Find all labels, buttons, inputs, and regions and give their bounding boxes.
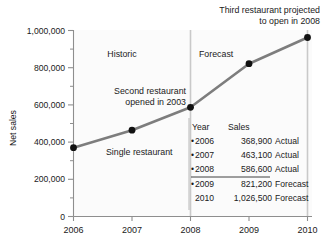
table-row-bullet-2008: • xyxy=(191,164,194,174)
table-row: • 2006 368,900 Actual xyxy=(191,136,299,146)
table-cell-status-2010: Forecast xyxy=(275,193,309,203)
table-row: • 2007 463,100 Actual xyxy=(191,150,299,160)
data-point-2008[interactable] xyxy=(187,104,194,111)
data-point-2006[interactable] xyxy=(70,144,77,151)
table-row: • 2009 821,200 Forecast xyxy=(191,179,309,189)
table-cell-year-2010: 2010 xyxy=(195,193,214,203)
x-tick-label-2007: 2007 xyxy=(122,225,142,235)
table-row-bullet-2006: • xyxy=(191,136,194,146)
table-cell-year-2006: 2006 xyxy=(195,136,214,146)
annotation-second-restaurant-line1: Second restaurant xyxy=(114,86,186,96)
net-sales-line-chart: 1,000,000 800,000 600,000 400,000 200,00… xyxy=(0,0,328,246)
table-cell-sales-2009: 821,200 xyxy=(241,179,272,189)
table-cell-sales-2010: 1,026,500 xyxy=(234,193,272,203)
annotation-third-restaurant-line1: Third restaurant projected xyxy=(219,5,320,15)
y-tick-label-600000: 600,000 xyxy=(34,100,65,110)
table-cell-year-2009: 2009 xyxy=(195,179,214,189)
x-tick-label-2006: 2006 xyxy=(63,225,83,235)
table-row: • 2008 586,600 Actual xyxy=(191,164,299,174)
table-row-bullet-2007: • xyxy=(191,150,194,160)
x-tick-label-2010: 2010 xyxy=(297,225,317,235)
annotation-second-restaurant-line2: opened in 2003 xyxy=(125,97,186,107)
table-row-bullet-2009: • xyxy=(191,179,194,189)
table-cell-sales-2008: 586,600 xyxy=(241,164,272,174)
y-axis-title: Net sales xyxy=(8,110,18,146)
y-tick-label-200000: 200,000 xyxy=(34,174,65,184)
data-point-2009[interactable] xyxy=(246,60,253,67)
table-header-sales: Sales xyxy=(228,122,250,132)
data-point-2007[interactable] xyxy=(129,127,136,134)
x-tick-label-2008: 2008 xyxy=(180,225,200,235)
table-header-year: Year xyxy=(192,122,210,132)
y-tick-label-1000000: 1,000,000 xyxy=(27,26,65,36)
table-cell-status-2009: Forecast xyxy=(275,179,309,189)
table-cell-year-2007: 2007 xyxy=(195,150,214,160)
table-cell-sales-2007: 463,100 xyxy=(241,150,272,160)
annotation-single-restaurant: Single restaurant xyxy=(106,147,173,157)
annotation-third-restaurant-line2: to open in 2008 xyxy=(259,16,320,26)
x-tick-label-2009: 2009 xyxy=(239,225,259,235)
zone-label-forecast: Forecast xyxy=(199,49,234,59)
y-tick-label-400000: 400,000 xyxy=(34,137,65,147)
y-tick-label-800000: 800,000 xyxy=(34,63,65,73)
table-cell-status-2008: Actual xyxy=(275,164,299,174)
x-axis-ticks xyxy=(74,217,308,222)
table-cell-status-2007: Actual xyxy=(275,150,299,160)
table-cell-status-2006: Actual xyxy=(275,136,299,146)
zone-label-historic: Historic xyxy=(107,49,137,59)
table-cell-sales-2006: 368,900 xyxy=(241,136,272,146)
table-cell-year-2008: 2008 xyxy=(195,164,214,174)
table-row: 2010 1,026,500 Forecast xyxy=(195,193,309,203)
data-point-2010[interactable] xyxy=(304,34,311,41)
y-tick-label-0: 0 xyxy=(60,212,65,222)
